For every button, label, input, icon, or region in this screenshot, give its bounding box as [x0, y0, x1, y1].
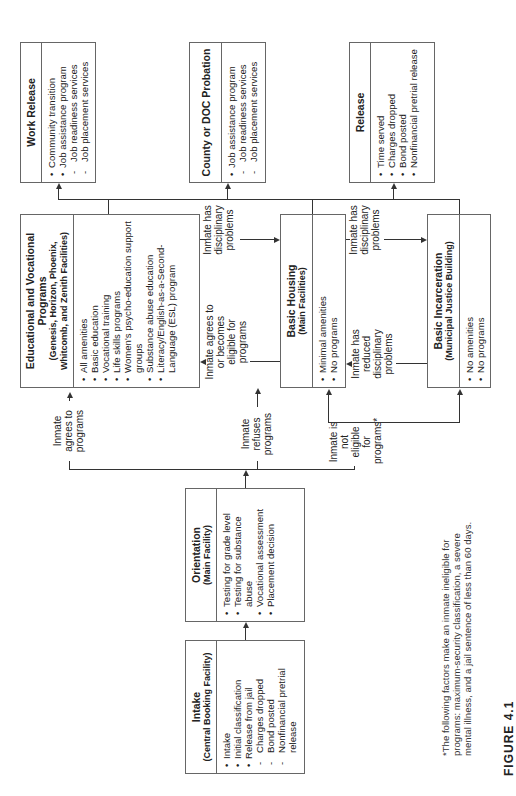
- intake-header: Intake (Central Booking Facility): [186, 641, 217, 773]
- arrow-head: [243, 470, 249, 476]
- connector-to-housing: [328, 395, 329, 423]
- educational-subtitle: (Genesis, Horizon, Phoenix, Whitcomb, an…: [48, 218, 70, 384]
- educational-programs-box: Educational and Vocational Programs (Gen…: [20, 214, 200, 388]
- probation-subitem: Job readiness services: [237, 47, 248, 176]
- label-edu-to-housing: Inmate has disciplinary problems: [202, 200, 235, 260]
- intake-subtitle: (Central Booking Facility): [202, 644, 213, 770]
- release-title: Release: [354, 46, 366, 179]
- connector-to-incarceration: [459, 395, 460, 423]
- educational-item: Vocational training: [100, 219, 111, 381]
- educational-list: All amenities Basic education Vocational…: [74, 215, 179, 387]
- probation-header: County or DOC Probation: [190, 43, 222, 182]
- intake-subitem: Bond posted: [265, 645, 276, 767]
- orientation-subtitle: (Main Facility): [202, 492, 213, 618]
- basic-incarceration-list: No amenities No programs: [460, 215, 488, 387]
- intake-title: Intake: [190, 644, 202, 770]
- educational-header: Educational and Vocational Programs (Gen…: [21, 215, 74, 387]
- educational-item: Substance abuse education: [144, 219, 155, 381]
- orientation-title: Orientation: [190, 492, 202, 618]
- label-agrees: Inmate agrees to programs: [52, 401, 85, 461]
- release-item: Bond posted: [397, 47, 408, 176]
- basic-incarceration-box: Basic Incarceration (Municipal Justice B…: [427, 214, 491, 388]
- connector-incarceration-out: [459, 200, 460, 214]
- connector-intake-orientation: [245, 628, 246, 640]
- connector-incarceration-to-housing: [396, 363, 427, 364]
- arrow-head: [67, 392, 73, 398]
- intake-list: Intake Initial classification Release fr…: [217, 641, 300, 773]
- probation-list: Job assistance program Job readiness ser…: [222, 43, 261, 182]
- release-item: Time served: [375, 47, 386, 176]
- basic-housing-header: Basic Housing (Main Facilities): [281, 215, 313, 387]
- work-release-box: Work Release Community transition Job as…: [20, 42, 96, 183]
- educational-item: Basic education: [89, 219, 100, 381]
- connector-housing-to-incarceration: [346, 239, 350, 240]
- figure-label: FIGURE 4.1: [502, 701, 516, 776]
- basic-incarceration-title: Basic Incarceration: [432, 218, 444, 384]
- intake-box: Intake (Central Booking Facility) Intake…: [185, 640, 305, 774]
- intake-item: Initial classification: [232, 645, 243, 767]
- release-header: Release: [350, 43, 371, 182]
- label-housing-to-incarceration: Inmate has disciplinary problems: [348, 200, 381, 260]
- connector-to-probation: [227, 189, 228, 200]
- orientation-item: Testing for grade level: [221, 493, 232, 615]
- probation-title: County or DOC Probation: [200, 46, 212, 179]
- intake-subitem: Nonfinancial pretrial release: [276, 645, 298, 767]
- work-release-item: Job assistance program: [57, 47, 68, 176]
- orientation-box: Orientation (Main Facility) Testing for …: [185, 488, 305, 622]
- work-release-subitem: Job placement services: [79, 47, 90, 176]
- label-not-eligible: Inmate is not eligible for programs*: [328, 418, 383, 466]
- work-release-header: Work Release: [21, 43, 42, 182]
- intake-item: Intake: [221, 645, 232, 767]
- label-housing-to-edu: Inmate agrees to or becomes eligible for…: [204, 300, 248, 384]
- arrow-head: [346, 361, 352, 367]
- orientation-item: Placement decision: [265, 493, 276, 615]
- basic-incarceration-subtitle: (Municipal Justice Building): [444, 218, 455, 384]
- probation-box: County or DOC Probation Job assistance p…: [189, 42, 266, 183]
- basic-housing-item: No programs: [328, 219, 339, 381]
- basic-incarceration-item: No amenities: [464, 219, 475, 381]
- release-item: Nonfinancial pretrial release: [408, 47, 419, 176]
- educational-item: All amenities: [78, 219, 89, 381]
- release-list: Time served Charges dropped Bond posted …: [371, 43, 421, 182]
- arrow-head: [225, 183, 231, 189]
- basic-housing-title: Basic Housing: [285, 218, 297, 384]
- intake-subitem: Charges dropped: [254, 645, 265, 767]
- educational-item: Women's psycho-education support groups: [122, 219, 144, 381]
- educational-item: Literacy/English-as-a-Second-Language (E…: [155, 219, 177, 381]
- orientation-item: Vocational assessment: [254, 493, 265, 615]
- work-release-title: Work Release: [25, 46, 37, 179]
- educational-item: Life skills programs: [111, 219, 122, 381]
- arrow-head: [457, 389, 463, 395]
- arrow-head: [255, 388, 261, 394]
- decision-bus: [69, 469, 355, 470]
- connector-housing-to-incarceration: [384, 239, 421, 240]
- connector-edu-to-housing: [240, 239, 274, 240]
- flowchart-rotated: Intake (Central Booking Facility) Intake…: [0, 0, 516, 796]
- orientation-header: Orientation (Main Facility): [186, 489, 217, 621]
- connector-edu-out: [108, 200, 109, 214]
- basic-incarceration-header: Basic Incarceration (Municipal Justice B…: [428, 215, 460, 387]
- connector-orientation-bus: [245, 476, 246, 488]
- basic-housing-list: Minimal amenities No programs: [313, 215, 341, 387]
- work-release-list: Community transition Job assistance prog…: [42, 43, 92, 182]
- label-incarceration-to-housing: Inmate has reduced disciplinary problems: [350, 324, 394, 384]
- basic-housing-box: Basic Housing (Main Facilities) Minimal …: [280, 214, 346, 388]
- probation-item: Job assistance program: [226, 47, 237, 176]
- basic-incarceration-item: No programs: [475, 219, 486, 381]
- orientation-list: Testing for grade level Testing for subs…: [217, 489, 278, 621]
- connector-not-eligible-split: [328, 422, 459, 423]
- work-release-item: Community transition: [46, 47, 57, 176]
- arrow-head: [200, 359, 206, 365]
- intake-item: Release from jail: [243, 645, 254, 767]
- basic-housing-item: Minimal amenities: [317, 219, 328, 381]
- exit-bus: [58, 199, 460, 200]
- release-box: Release Time served Charges dropped Bond…: [349, 42, 435, 183]
- connector-housing-to-edu: [250, 361, 280, 362]
- probation-subitem: Job placement services: [248, 47, 259, 176]
- footnote: *The following factors make an inmate in…: [440, 506, 473, 756]
- connector-to-release: [393, 189, 394, 200]
- release-item: Charges dropped: [386, 47, 397, 176]
- arrow-head: [391, 183, 397, 189]
- connector-housing-out: [312, 200, 313, 214]
- label-refuses: Inmate refuses programs: [240, 407, 273, 461]
